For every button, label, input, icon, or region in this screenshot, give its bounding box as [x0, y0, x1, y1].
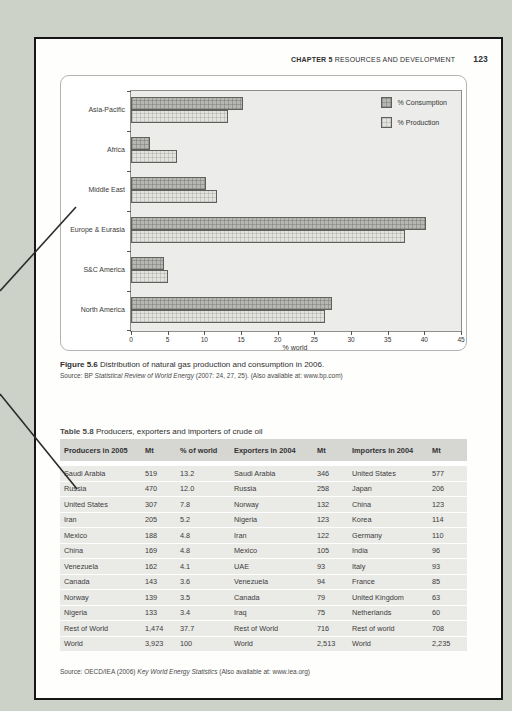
table-cell: 123 — [432, 500, 467, 509]
table-cell: 307 — [145, 500, 180, 509]
table-header-cell: Mt — [432, 446, 467, 455]
table-cell: 139 — [145, 593, 180, 602]
x-axis-tick — [168, 331, 169, 335]
table-cell: 4.1 — [180, 562, 234, 571]
table-row: Nigeria1333.4Iraq75Netherlands60 — [60, 606, 467, 622]
table-cell: Iran — [234, 531, 317, 540]
bar-consumption — [131, 137, 150, 150]
x-axis-tick-label: 25 — [311, 336, 318, 343]
table-cell: 2,235 — [432, 639, 467, 648]
table-cell: 519 — [145, 469, 180, 478]
bar-consumption — [131, 217, 426, 230]
legend-entry: % Production — [381, 117, 447, 128]
table-header-cell: Producers in 2005 — [64, 446, 145, 455]
table-cell: Russia — [234, 484, 317, 493]
bar-production — [131, 270, 168, 283]
category-label: North America — [61, 306, 129, 314]
table-cell: 205 — [145, 515, 180, 524]
table-cell: United States — [64, 500, 145, 509]
table-cell: 96 — [432, 546, 467, 555]
table-cell: China — [352, 500, 432, 509]
table-cell: 1,474 — [145, 624, 180, 633]
category-label: Asia-Pacific — [61, 106, 129, 114]
legend-label: % Production — [398, 119, 440, 126]
table-title: Table 5.8 Producers, exporters and impor… — [60, 427, 263, 436]
table-body: Saudi Arabia51913.2Saudi Arabia346United… — [60, 466, 467, 652]
table-cell: 188 — [145, 531, 180, 540]
bar-consumption — [131, 177, 206, 190]
x-axis-label: % world — [130, 344, 460, 351]
table-cell: France — [352, 577, 432, 586]
table-row: Rest of World1,47437.7Rest of World716Re… — [60, 621, 467, 637]
x-axis-tick — [278, 331, 279, 335]
y-axis-tick — [127, 171, 131, 172]
x-axis-tick — [241, 331, 242, 335]
x-axis-tick-label: 30 — [347, 336, 354, 343]
table-cell: 4.8 — [180, 531, 234, 540]
table-cell: Mexico — [234, 546, 317, 555]
table-cell: Korea — [352, 515, 432, 524]
table-cell: Venezuela — [64, 562, 145, 571]
table-cell: Canada — [234, 593, 317, 602]
table-row: China1694.8Mexico105India96 — [60, 544, 467, 560]
category-label: Africa — [61, 146, 129, 154]
table-cell: 169 — [145, 546, 180, 555]
table-cell: Saudi Arabia — [64, 469, 145, 478]
legend-entry: % Consumption — [381, 97, 447, 108]
x-axis-tick — [461, 331, 462, 335]
y-axis-tick — [127, 291, 131, 292]
table-cell: Venezuela — [234, 577, 317, 586]
table-row: Mexico1884.8Iran122Germany110 — [60, 528, 467, 544]
table-row: Canada1433.6Venezuela94France85 — [60, 575, 467, 591]
table-cell: 133 — [145, 608, 180, 617]
table-cell: 206 — [432, 484, 467, 493]
table-cell: World — [234, 639, 317, 648]
bar-production — [131, 110, 228, 123]
table-row: United States3077.8Norway132China123 — [60, 497, 467, 513]
figure-chart-box: Asia-PacificAfricaMiddle EastEurope & Eu… — [60, 75, 467, 351]
table-header-cell: Mt — [145, 446, 180, 455]
bar-production — [131, 150, 177, 163]
table-cell: 2,513 — [317, 639, 352, 648]
x-axis-tick-label: 5 — [166, 336, 170, 343]
legend-swatch — [381, 97, 392, 108]
bar-production — [131, 230, 405, 243]
table-cell: Iraq — [234, 608, 317, 617]
table-row: Venezuela1624.1UAE93Italy93 — [60, 559, 467, 575]
table-cell: Rest of world — [352, 624, 432, 633]
table-cell: China — [64, 546, 145, 555]
table-cell: 708 — [432, 624, 467, 633]
table-cell: 123 — [317, 515, 352, 524]
y-axis-tick — [127, 91, 131, 92]
figure-source-suffix: (2007: 24, 27, 25). (Also available at: … — [194, 372, 343, 379]
table-cell: Italy — [352, 562, 432, 571]
table-cell: United States — [352, 469, 432, 478]
x-axis-tick — [314, 331, 315, 335]
table-header-cell: Mt — [317, 446, 352, 455]
table-cell: Nigeria — [64, 608, 145, 617]
table-title-label: Table 5.8 — [60, 427, 94, 436]
table-cell: 122 — [317, 531, 352, 540]
figure-source: Source: BP Statistical Review of World E… — [60, 372, 343, 379]
table-cell: 716 — [317, 624, 352, 633]
figure-caption-label: Figure 5.6 — [60, 360, 98, 369]
bar-production — [131, 190, 217, 203]
table-cell: 470 — [145, 484, 180, 493]
data-table: Producers in 2005Mt% of worldExporters i… — [60, 439, 467, 652]
table-header-row: Producers in 2005Mt% of worldExporters i… — [60, 439, 467, 461]
bar-consumption — [131, 257, 164, 270]
x-axis-tick — [204, 331, 205, 335]
figure-source-title: Statistical Review of World Energy — [95, 372, 194, 379]
table-header-cell: Exporters in 2004 — [234, 446, 317, 455]
table-row: Iran2055.2Nigeria123Korea114 — [60, 513, 467, 529]
table-cell: Russia — [64, 484, 145, 493]
figure-source-prefix: Source: BP — [60, 372, 95, 379]
table-cell: 93 — [432, 562, 467, 571]
table-cell: 3,923 — [145, 639, 180, 648]
table-cell: UAE — [234, 562, 317, 571]
x-axis-tick-label: 15 — [237, 336, 244, 343]
legend: % Consumption% Production — [381, 97, 447, 128]
table-cell: Iran — [64, 515, 145, 524]
figure-caption: Figure 5.6 Distribution of natural gas p… — [60, 360, 324, 369]
y-axis-tick — [127, 211, 131, 212]
